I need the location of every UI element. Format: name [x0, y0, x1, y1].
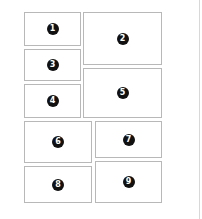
panel-number-badge: 5	[117, 87, 129, 99]
clipped-caption	[4, 215, 194, 219]
panel-6: 6	[24, 121, 92, 163]
panel-number-badge: 2	[117, 33, 129, 45]
panel-number-badge: 7	[123, 134, 135, 146]
panel-5: 5	[83, 68, 162, 118]
panel-number-badge: 4	[47, 95, 59, 107]
panel-number-badge: 3	[47, 59, 59, 71]
panel-number-badge: 1	[47, 23, 59, 35]
panel-1: 1	[24, 12, 81, 46]
right-edge-divider	[199, 0, 200, 219]
panel-3: 3	[24, 49, 81, 81]
panel-number-badge: 9	[123, 176, 135, 188]
panel-7: 7	[95, 121, 162, 158]
panel-number-badge: 6	[52, 136, 64, 148]
panel-8: 8	[24, 166, 92, 203]
panel-9: 9	[95, 161, 162, 203]
panel-2: 2	[83, 12, 162, 65]
panel-number-badge: 8	[52, 179, 64, 191]
panel-4: 4	[24, 84, 81, 118]
